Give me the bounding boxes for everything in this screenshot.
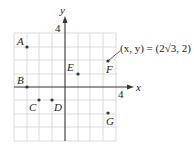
y-axis-arrow-icon — [63, 16, 68, 23]
point-c — [37, 98, 40, 101]
point-e — [76, 72, 79, 75]
point-b — [25, 85, 28, 88]
coordinate-plane: x 4 y 4 A B C D E F G (x, y) = (2√3, 2) — [0, 0, 194, 149]
y-axis-label: y — [59, 4, 65, 16]
leader-line — [109, 51, 120, 60]
point-a — [25, 45, 28, 48]
point-a-label: A — [16, 35, 24, 47]
x-tick-label: 4 — [118, 88, 124, 100]
point-g-label: G — [106, 115, 114, 127]
point-b-label: B — [17, 74, 24, 86]
point-e-label: E — [66, 61, 74, 73]
y-axis: y 4 — [55, 4, 68, 141]
x-axis: x 4 — [14, 81, 141, 100]
point-d-label: D — [53, 101, 62, 113]
x-axis-arrow-icon — [127, 85, 134, 90]
point-c-label: C — [29, 101, 37, 113]
annotation: (x, y) = (2√3, 2) — [109, 42, 191, 60]
y-tick-label: 4 — [55, 22, 61, 34]
f-coordinate-annotation: (x, y) = (2√3, 2) — [120, 42, 191, 55]
x-axis-label: x — [135, 81, 141, 93]
point-f-label: F — [105, 63, 113, 75]
